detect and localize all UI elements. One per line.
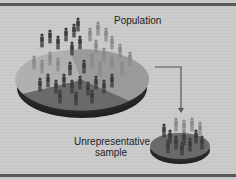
elbow-arrow: [155, 67, 184, 113]
sample-label-line1: Unrepresentative: [74, 136, 148, 147]
population-pie: [15, 17, 149, 118]
sample-label: Unrepresentative sample: [74, 136, 148, 158]
sample-pie: [150, 117, 210, 164]
sample-label-line2: sample: [74, 147, 148, 158]
sample-figures-light: [174, 117, 202, 135]
population-label: Population: [114, 15, 161, 26]
